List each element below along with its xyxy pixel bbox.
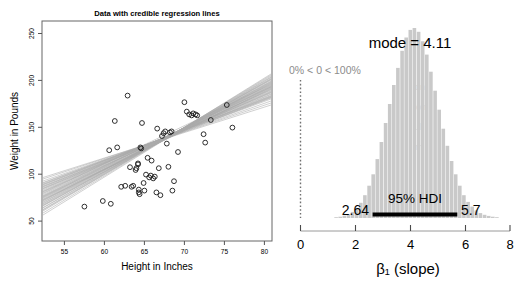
- x-tick-75: 75: [221, 248, 229, 255]
- figure-canvas: Data with credible regression lines: [0, 0, 522, 282]
- scatter-x-axis-label: Height in Inches: [121, 261, 193, 272]
- x-tick-65: 65: [141, 248, 149, 255]
- hdi-high-label: 5.7: [461, 202, 481, 218]
- hist-tick-4: 4: [407, 237, 414, 252]
- scatter-svg: Data with credible regression lines: [0, 0, 282, 282]
- y-axis-tick-labels: 50 100 150 200 250: [28, 28, 35, 225]
- y-tick-250: 250: [28, 28, 35, 39]
- y-axis-ticks: [38, 34, 42, 222]
- hist-tick-6: 6: [462, 237, 469, 252]
- hdi-label: 95% HDI: [388, 191, 442, 206]
- y-tick-150: 150: [28, 121, 35, 132]
- posterior-svg: dn on uli rn: [282, 0, 522, 282]
- hist-x-axis-label: β₁ (slope): [376, 260, 440, 277]
- hist-axis-ticks: [301, 225, 511, 231]
- x-tick-55: 55: [61, 248, 69, 255]
- posterior-panel: dn on uli rn: [282, 0, 522, 282]
- x-axis-tick-labels: 55 60 65 70 75 80: [61, 248, 269, 255]
- x-axis-ticks: [64, 241, 264, 245]
- scatter-panel: Data with credible regression lines: [0, 0, 282, 282]
- hist-tick-2: 2: [352, 237, 359, 252]
- hist-tick-0: 0: [297, 237, 304, 252]
- x-tick-70: 70: [181, 248, 189, 255]
- scatter-y-axis-label: Weight in Pounds: [9, 92, 20, 170]
- y-tick-100: 100: [28, 168, 35, 179]
- y-tick-50: 50: [28, 217, 35, 225]
- hist-axis-tick-labels: 0 2 4 6 8: [297, 237, 514, 252]
- y-tick-200: 200: [28, 75, 35, 86]
- hist-tick-8: 8: [506, 237, 513, 252]
- rope-percentage-label: 0% < 0 < 100%: [289, 64, 361, 76]
- hdi-low-label: 2.64: [342, 202, 369, 218]
- x-tick-80: 80: [261, 248, 269, 255]
- scatter-title: Data with credible regression lines: [94, 9, 219, 18]
- mode-label: mode = 4.11: [369, 34, 452, 51]
- x-tick-60: 60: [101, 248, 109, 255]
